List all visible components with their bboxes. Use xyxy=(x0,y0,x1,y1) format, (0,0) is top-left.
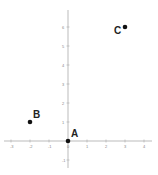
point-c[interactable] xyxy=(123,25,128,30)
svg-text:1: 1 xyxy=(62,120,65,125)
point-a-label: A xyxy=(71,128,78,139)
axis-ticks: -3-2-101234-1123456 xyxy=(10,25,146,163)
svg-text:1: 1 xyxy=(86,144,89,149)
svg-text:3: 3 xyxy=(124,144,127,149)
svg-text:5: 5 xyxy=(62,44,65,49)
svg-text:0: 0 xyxy=(67,144,70,149)
point-a[interactable] xyxy=(66,139,71,144)
svg-text:2: 2 xyxy=(105,144,108,149)
svg-text:-1: -1 xyxy=(48,144,52,149)
svg-text:4: 4 xyxy=(62,63,65,68)
svg-text:3: 3 xyxy=(62,82,65,87)
coordinate-plane: -3-2-101234-1123456 A B C xyxy=(0,0,158,175)
point-b-label: B xyxy=(33,109,40,120)
svg-text:4: 4 xyxy=(143,144,146,149)
svg-text:2: 2 xyxy=(62,101,65,106)
svg-text:6: 6 xyxy=(62,25,65,30)
svg-text:-2: -2 xyxy=(29,144,33,149)
point-c-label: C xyxy=(114,25,121,36)
point-b[interactable] xyxy=(28,120,33,125)
svg-text:-1: -1 xyxy=(62,158,66,163)
svg-text:-3: -3 xyxy=(10,144,14,149)
